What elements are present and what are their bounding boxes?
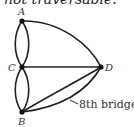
edge-a-c-2 — [22, 21, 29, 67]
vertex-a — [19, 18, 24, 23]
label-a: A — [17, 6, 25, 17]
edge-c-b-1 — [15, 67, 22, 112]
edge-a-d — [22, 21, 101, 67]
annotation-pointer — [70, 100, 78, 104]
bridge-annotation: 8th bridge — [79, 98, 134, 111]
edge-c-b-2 — [22, 67, 29, 112]
label-b: B — [17, 116, 25, 127]
label-c: C — [8, 62, 16, 73]
graph-diagram: A C D B 8th bridge — [0, 0, 134, 127]
label-d: D — [104, 62, 113, 73]
edge-a-c-1 — [15, 21, 22, 67]
vertex-b — [19, 109, 24, 114]
vertex-d — [98, 64, 103, 69]
vertex-c — [19, 64, 24, 69]
